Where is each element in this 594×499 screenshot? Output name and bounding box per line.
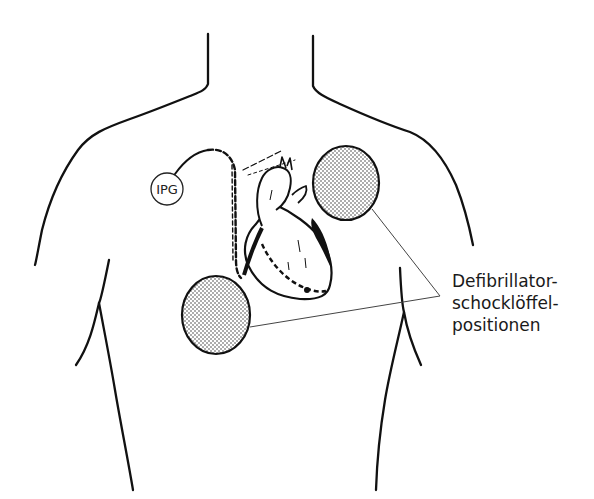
- chest-diagram: IPG: [0, 0, 594, 499]
- callout-line-1: Defibrillator-: [452, 270, 559, 292]
- defibrillator-callout-label: Defibrillator- schocklöffel- positionen: [452, 270, 559, 336]
- callout-line-3: positionen: [452, 314, 559, 336]
- callout-line-2: schocklöffel-: [452, 292, 559, 314]
- paddle-lower-left: [182, 276, 250, 354]
- ipg-label: IPG: [156, 182, 178, 197]
- paddle-upper-right: [313, 146, 379, 220]
- ipg-device: IPG: [151, 173, 183, 205]
